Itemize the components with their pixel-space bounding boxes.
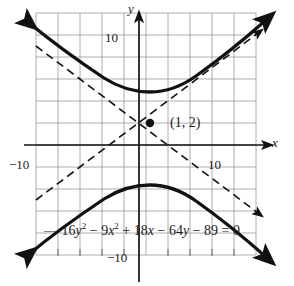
equation-op4: −: [193, 223, 201, 238]
x-axis-tick-label-neg10: −10: [9, 158, 29, 171]
hyperbola-figure: [0, 0, 294, 286]
axes: [24, 18, 266, 282]
equation-op2: +: [122, 223, 130, 238]
y-axis-label: y: [128, 2, 134, 15]
equation-term3-var: x: [148, 223, 154, 238]
lower-branch: [28, 185, 266, 257]
equation-caption: — 16y2 − 9x2 + 18x − 64y − 89 = 0: [44, 222, 240, 238]
center-point-label: (1, 2): [170, 116, 200, 130]
equation-leading-dash: —: [44, 223, 58, 238]
asymptote-negative-slope: [36, 46, 258, 213]
equation-rhs: 0: [233, 223, 240, 238]
equation-term4-coef: 64: [169, 223, 183, 238]
equation-term2-exponent: 2: [114, 221, 119, 231]
equation-op3: −: [157, 223, 165, 238]
y-axis-tick-label-neg10: −10: [107, 251, 127, 264]
center-point-marker: [146, 119, 154, 127]
upper-branch: [28, 20, 266, 92]
equation-term3-coef: 18: [134, 223, 148, 238]
plot-grid: [36, 13, 256, 255]
y-axis-tick-label-10: 10: [105, 31, 118, 44]
x-axis-label: x: [272, 136, 278, 149]
equation-constant: 89: [204, 223, 218, 238]
equation-term1-coef: 16: [62, 223, 76, 238]
equation-term4-var: y: [183, 223, 189, 238]
asymptote-positive-slope: [36, 33, 258, 200]
equation-equals-sign: =: [222, 223, 230, 238]
equation-term1-exponent: 2: [82, 221, 87, 231]
equation-op1: −: [90, 223, 98, 238]
x-axis-tick-label-10: 10: [208, 158, 221, 171]
